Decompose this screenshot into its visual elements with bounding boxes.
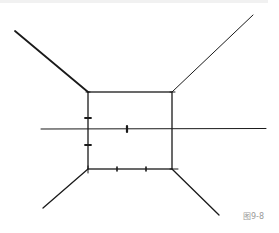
diagonal-bottom-left — [43, 169, 88, 208]
horizon-line — [41, 129, 266, 130]
figure-caption: 图9-8 — [243, 210, 264, 221]
figure: 图9-8 — [0, 0, 279, 233]
diagonal-top-right — [172, 15, 253, 92]
diagonal-top-left — [15, 31, 88, 92]
diagonal-bottom-right — [172, 169, 219, 215]
perspective-diagram — [0, 0, 279, 233]
back-wall-rectangle — [88, 92, 172, 169]
